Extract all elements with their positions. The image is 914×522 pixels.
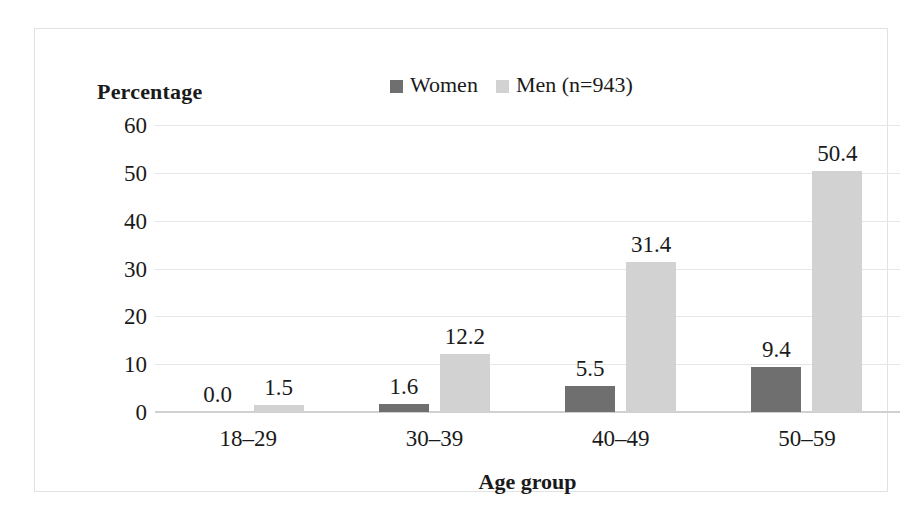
x-axis-tick-label: 30–39 bbox=[406, 427, 464, 450]
legend-label-women: Women bbox=[410, 74, 478, 96]
x-axis-title: Age group bbox=[155, 469, 900, 495]
legend-label-men: Men (n=943) bbox=[516, 74, 633, 96]
bar-rect bbox=[379, 404, 429, 412]
bar-value-label: 0.0 bbox=[203, 383, 232, 406]
bar-group: 5.531.4 bbox=[528, 125, 714, 412]
bar-women[interactable]: 0.0 bbox=[193, 125, 243, 412]
gridline bbox=[155, 412, 900, 413]
bar-value-label: 1.6 bbox=[390, 375, 419, 398]
chart-figure-frame: Percentage Women Men (n=943) 60504030201… bbox=[34, 28, 888, 492]
y-axis-tick-label: 30 bbox=[87, 257, 147, 280]
y-axis-tick-label: 10 bbox=[87, 353, 147, 376]
y-axis-tick-label: 0 bbox=[87, 401, 147, 424]
bar-men[interactable]: 31.4 bbox=[626, 125, 676, 412]
bar-value-label: 12.2 bbox=[445, 325, 485, 348]
x-axis-tick-label: 50–59 bbox=[778, 427, 836, 450]
legend-entry-women[interactable]: Women bbox=[390, 74, 478, 96]
bar-rect bbox=[254, 405, 304, 412]
bar-group: 1.612.2 bbox=[341, 125, 527, 412]
bar-value-label: 1.5 bbox=[264, 376, 293, 399]
bar-men[interactable]: 50.4 bbox=[812, 125, 862, 412]
chart-legend: Women Men (n=943) bbox=[390, 74, 633, 96]
bar-group: 0.01.5 bbox=[155, 125, 341, 412]
bar-value-label: 50.4 bbox=[817, 142, 857, 165]
plot-area: 0.01.51.612.25.531.49.450.4 bbox=[155, 125, 900, 412]
bar-men[interactable]: 1.5 bbox=[254, 125, 304, 412]
legend-entry-men[interactable]: Men (n=943) bbox=[496, 74, 633, 96]
y-axis-title: Percentage bbox=[97, 79, 202, 105]
bar-group: 9.450.4 bbox=[714, 125, 900, 412]
x-axis-tick-label: 40–49 bbox=[592, 427, 650, 450]
bar-women[interactable]: 5.5 bbox=[565, 125, 615, 412]
y-axis-tick-label: 40 bbox=[87, 209, 147, 232]
y-axis-tick-labels: 6050403020100 bbox=[85, 125, 147, 412]
bar-women[interactable]: 1.6 bbox=[379, 125, 429, 412]
bar-rect bbox=[812, 171, 862, 412]
bar-value-label: 9.4 bbox=[762, 338, 791, 361]
bar-rect bbox=[565, 386, 615, 412]
x-axis-tick-labels: 18–2930–3940–4950–59 bbox=[155, 427, 900, 461]
y-axis-tick-label: 50 bbox=[87, 161, 147, 184]
bar-rect bbox=[751, 367, 801, 412]
y-axis-tick-label: 20 bbox=[87, 305, 147, 328]
bar-value-label: 5.5 bbox=[576, 357, 605, 380]
bar-rect bbox=[626, 262, 676, 412]
bar-value-label: 31.4 bbox=[631, 233, 671, 256]
bar-men[interactable]: 12.2 bbox=[440, 125, 490, 412]
y-axis-tick-label: 60 bbox=[87, 114, 147, 137]
bar-rect bbox=[440, 354, 490, 412]
legend-swatch-women-icon bbox=[390, 80, 403, 93]
bar-women[interactable]: 9.4 bbox=[751, 125, 801, 412]
x-axis-tick-label: 18–29 bbox=[219, 427, 277, 450]
legend-swatch-men-icon bbox=[496, 80, 509, 93]
